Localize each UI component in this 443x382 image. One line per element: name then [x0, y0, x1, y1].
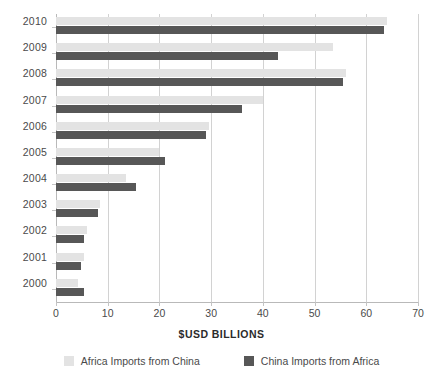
y-tick-label-2005: 2005 [23, 146, 47, 158]
x-tick-label-60: 60 [360, 307, 372, 319]
gridline-70 [418, 14, 419, 302]
bar-row: 2002 [56, 223, 418, 249]
y-tick-label-2008: 2008 [23, 67, 47, 79]
y-tick-label-2006: 2006 [23, 120, 47, 132]
legend-swatch-icon-dark [244, 356, 254, 366]
x-tick-mark-50 [315, 302, 316, 306]
y-tick-label-2009: 2009 [23, 41, 47, 53]
bar-china-imports-from-africa-2005 [56, 157, 165, 165]
bar-africa-imports-from-china-2003 [56, 200, 100, 208]
x-axis-line [56, 302, 419, 303]
x-tick-label-40: 40 [257, 307, 269, 319]
bar-china-imports-from-africa-2009 [56, 52, 278, 60]
x-tick-mark-70 [418, 302, 419, 306]
y-tick-label-2007: 2007 [23, 94, 47, 106]
y-tick-label-2001: 2001 [23, 251, 47, 263]
x-tick-mark-60 [366, 302, 367, 306]
y-tick-label-2002: 2002 [23, 224, 47, 236]
x-tick-label-30: 30 [205, 307, 217, 319]
bar-row: 2010 [56, 14, 418, 40]
y-tick-label-2003: 2003 [23, 198, 47, 210]
y-tick-label-2000: 2000 [23, 277, 47, 289]
bar-china-imports-from-africa-2008 [56, 78, 343, 86]
bar-africa-imports-from-china-2005 [56, 148, 159, 156]
legend-swatch-icon-light [64, 356, 74, 366]
bar-china-imports-from-africa-2001 [56, 262, 81, 270]
bar-china-imports-from-africa-2000 [56, 288, 84, 296]
bar-africa-imports-from-china-2007 [56, 96, 263, 104]
chart-legend: Africa Imports from China China Imports … [0, 355, 443, 367]
x-tick-mark-20 [159, 302, 160, 306]
legend-label: China Imports from Africa [261, 355, 379, 367]
bar-africa-imports-from-china-2000 [56, 279, 78, 287]
x-tick-mark-30 [211, 302, 212, 306]
y-tick-label-2010: 2010 [23, 15, 47, 27]
y-tick-label-2004: 2004 [23, 172, 47, 184]
x-tick-label-50: 50 [309, 307, 321, 319]
x-tick-label-20: 20 [154, 307, 166, 319]
bar-row: 2001 [56, 250, 418, 276]
bar-china-imports-from-africa-2002 [56, 235, 84, 243]
bar-africa-imports-from-china-2001 [56, 253, 84, 261]
bar-africa-imports-from-china-2002 [56, 226, 87, 234]
bar-china-imports-from-africa-2003 [56, 209, 98, 217]
bar-chart: 2010200920082007200620052004200320022001… [0, 0, 443, 382]
bar-row: 2004 [56, 171, 418, 197]
bar-row: 2008 [56, 66, 418, 92]
legend-item-china-imports-from-africa: China Imports from Africa [244, 355, 379, 367]
bar-rows: 2010200920082007200620052004200320022001… [56, 14, 418, 302]
bar-africa-imports-from-china-2006 [56, 122, 209, 130]
bar-china-imports-from-africa-2010 [56, 26, 384, 34]
x-tick-mark-40 [263, 302, 264, 306]
x-tick-label-70: 70 [412, 307, 424, 319]
legend-label: Africa Imports from China [81, 355, 200, 367]
x-tick-label-0: 0 [53, 307, 59, 319]
bar-africa-imports-from-china-2008 [56, 69, 346, 77]
x-tick-label-10: 10 [102, 307, 114, 319]
bar-china-imports-from-africa-2007 [56, 105, 242, 113]
bar-row: 2003 [56, 197, 418, 223]
bar-china-imports-from-africa-2006 [56, 131, 206, 139]
bar-africa-imports-from-china-2009 [56, 43, 333, 51]
bar-row: 2006 [56, 119, 418, 145]
legend-item-africa-imports-from-china: Africa Imports from China [64, 355, 200, 367]
bar-row: 2005 [56, 145, 418, 171]
bar-china-imports-from-africa-2004 [56, 183, 136, 191]
bar-row: 2009 [56, 40, 418, 66]
x-axis-title: $USD BILLIONS [0, 328, 443, 340]
bar-row: 2000 [56, 276, 418, 302]
bar-africa-imports-from-china-2010 [56, 17, 387, 25]
bar-row: 2007 [56, 93, 418, 119]
bar-africa-imports-from-china-2004 [56, 174, 126, 182]
x-tick-mark-0 [56, 302, 57, 306]
x-tick-mark-10 [108, 302, 109, 306]
